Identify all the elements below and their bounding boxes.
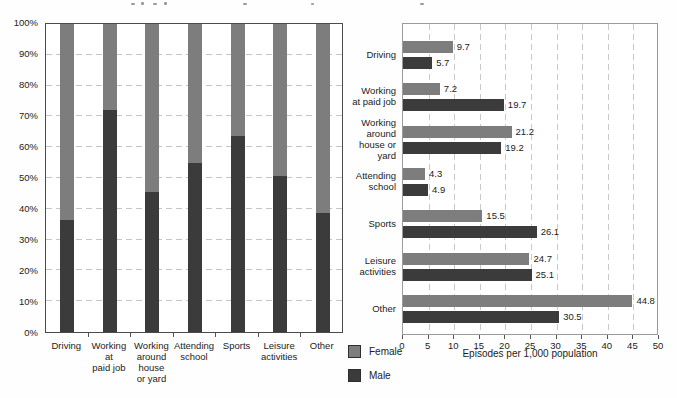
value-label: 44.8: [636, 295, 655, 307]
gridline-35: [582, 24, 583, 334]
legend-item-male: Male: [348, 369, 391, 382]
value-label: 25.1: [536, 269, 555, 281]
gridline-15: [480, 24, 481, 334]
x-axis-tick: [88, 333, 89, 337]
female-segment: [188, 24, 202, 163]
x-axis-tick: [300, 333, 301, 337]
category-label: Other: [310, 302, 396, 313]
y-tick-label: 30%: [0, 235, 38, 245]
category-label: Working around house or yard: [310, 117, 396, 161]
y-tick-label: 80%: [0, 80, 38, 90]
y-tick-label: 40%: [0, 204, 38, 214]
x-axis-tick: [130, 333, 131, 337]
female-bar: [403, 253, 529, 265]
female-bar: [403, 83, 440, 95]
x-axis-tick: [173, 333, 174, 337]
x-tick-label: 50: [648, 341, 668, 351]
y-tick-label: 50%: [0, 173, 38, 183]
male-bar: [403, 184, 428, 196]
gridline-10: [454, 24, 455, 334]
y-tick-label: 0%: [0, 328, 38, 338]
x-axis-tick: [658, 335, 659, 339]
stacked-bar-chart-plot: [45, 23, 343, 333]
x-axis-tick: [402, 335, 403, 339]
x-axis-tick: [607, 335, 608, 339]
category-label: Attending school: [310, 170, 396, 192]
y-tick-label: 10%: [0, 297, 38, 307]
male-segment: [145, 192, 159, 332]
value-label: 7.2: [444, 83, 457, 95]
male-bar: [403, 57, 432, 69]
grouped-bar-chart-plot: 9.75.77.219.721.219.24.34.915.526.124.72…: [402, 23, 658, 335]
x-axis-tick: [428, 335, 429, 339]
female-segment: [273, 24, 287, 176]
x-axis-tick: [581, 335, 582, 339]
x-tick-label: 0: [392, 341, 412, 351]
value-label: 4.9: [432, 184, 445, 196]
legend-label: Male: [369, 370, 391, 381]
value-label: 19.2: [505, 142, 524, 154]
category-label: Sports: [310, 218, 396, 229]
female-bar: [403, 41, 453, 53]
value-label: 15.5: [486, 210, 505, 222]
x-axis-tick: [215, 333, 216, 337]
category-label: Working at paid job: [310, 85, 396, 107]
x-tick-label: 10: [443, 341, 463, 351]
x-axis-tick: [479, 335, 480, 339]
gridline-45: [633, 24, 634, 334]
female-segment: [231, 24, 245, 136]
female-bar: [403, 168, 425, 180]
stacked-bar: [103, 24, 117, 332]
value-label: 19.7: [508, 99, 527, 111]
x-tick-label: 45: [622, 341, 642, 351]
x-tick-label: 35: [571, 341, 591, 351]
x-axis-tick: [258, 333, 259, 337]
stacked-bar: [273, 24, 287, 332]
y-tick-label: 20%: [0, 266, 38, 276]
gridline-30: [557, 24, 558, 334]
male-bar: [403, 99, 504, 111]
female-segment: [103, 24, 117, 110]
y-tick-label: 70%: [0, 111, 38, 121]
male-swatch: [348, 369, 361, 382]
female-segment: [145, 24, 159, 192]
x-axis-tick: [530, 335, 531, 339]
y-tick-label: 90%: [0, 49, 38, 59]
female-bar: [403, 126, 512, 138]
category-label: Leisure activities: [310, 255, 396, 277]
x-axis-tick: [504, 335, 505, 339]
male-segment: [103, 110, 117, 332]
x-tick-label: 30: [546, 341, 566, 351]
x-axis-tick: [632, 335, 633, 339]
y-tick-label: 100%: [0, 18, 38, 28]
male-segment: [60, 220, 74, 332]
x-axis-tick: [453, 335, 454, 339]
stacked-bar: [231, 24, 245, 332]
gridline-25: [531, 24, 532, 334]
x-tick-label: 40: [597, 341, 617, 351]
male-segment: [273, 176, 287, 332]
male-bar: [403, 311, 559, 323]
x-tick-label: 25: [520, 341, 540, 351]
y-tick-label: 60%: [0, 142, 38, 152]
chart-figure: 9.75.77.219.721.219.24.34.915.526.124.72…: [0, 0, 677, 398]
value-label: 30.5: [563, 311, 582, 323]
female-bar: [403, 295, 632, 307]
stacked-bar: [145, 24, 159, 332]
male-bar: [403, 142, 501, 154]
category-label: Other: [291, 340, 353, 351]
female-bar: [403, 210, 482, 222]
male-bar: [403, 269, 532, 281]
value-label: 24.7: [533, 253, 552, 265]
value-label: 4.3: [429, 168, 442, 180]
stacked-bar: [188, 24, 202, 332]
female-segment: [60, 24, 74, 220]
male-segment: [231, 136, 245, 332]
x-tick-label: 20: [494, 341, 514, 351]
x-tick-label: 5: [418, 341, 438, 351]
x-tick-label: 15: [469, 341, 489, 351]
gridline-20: [505, 24, 506, 334]
male-bar: [403, 226, 537, 238]
x-axis-tick: [556, 335, 557, 339]
value-label: 21.2: [516, 126, 535, 138]
